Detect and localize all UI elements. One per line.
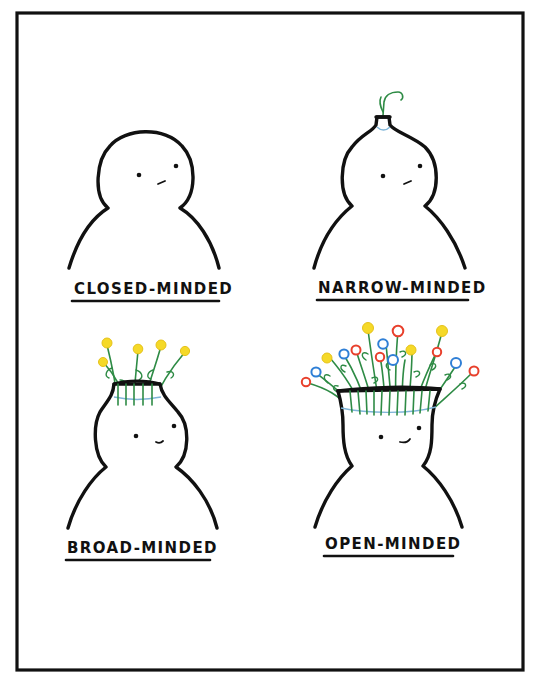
broad-right-eye xyxy=(172,424,177,429)
picture-frame xyxy=(17,13,523,670)
illustration-canvas: CLOSED-MINDED NARROW-MINDED xyxy=(0,0,543,683)
broad-left-eye xyxy=(134,434,139,439)
closed-left-eye xyxy=(137,173,142,178)
open-left-eye xyxy=(379,435,384,440)
narrow-left-eye xyxy=(381,174,386,179)
narrow-right-eye xyxy=(418,164,423,169)
label-broad-minded: BROAD-MINDED xyxy=(67,539,218,557)
label-closed-minded: CLOSED-MINDED xyxy=(74,280,233,298)
label-open-minded: OPEN-MINDED xyxy=(325,535,461,553)
open-right-eye xyxy=(417,426,422,431)
label-narrow-minded: NARROW-MINDED xyxy=(318,279,487,297)
closed-right-eye xyxy=(174,164,179,169)
